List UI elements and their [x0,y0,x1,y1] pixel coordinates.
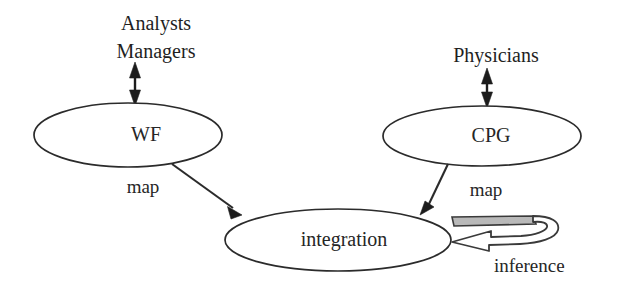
edge-integration-self-loop-top-bar [452,216,536,226]
edge-cpg-to-integration-label: map [470,179,503,200]
edge-integration-self-loop [452,216,558,251]
edge-wf-to-integration [172,164,242,219]
node-integration-label: integration [301,228,388,251]
node-wf-ellipse[interactable] [34,103,222,167]
diagram-canvas: Analysts Managers Physicians WF CPG inte… [0,0,636,286]
actor-arrow-analysts-wf [130,62,141,106]
edge-wf-to-integration-label: map [127,176,160,197]
edge-cpg-to-integration-arrowhead [420,201,434,215]
node-wf-label: WF [131,123,161,145]
edge-wf-to-integration-arrowhead [228,207,243,220]
actor-arrow-physicians-cpg [482,68,493,108]
diagram-root: Analysts Managers Physicians WF CPG inte… [0,0,636,286]
edge-integration-self-loop-label: inference [494,255,565,276]
actor-managers-label: Managers [117,40,196,63]
actor-analysts-label: Analysts [121,12,191,35]
actor-arrow-physicians-cpg-head-up [482,68,493,84]
actor-arrow-analysts-wf-head-up [130,62,141,78]
actor-physicians-label: Physicians [453,44,539,67]
node-cpg-label: CPG [472,124,511,146]
edge-cpg-to-integration-shaft [428,164,448,206]
edge-cpg-to-integration [420,164,448,215]
edge-wf-to-integration-shaft [172,164,233,208]
